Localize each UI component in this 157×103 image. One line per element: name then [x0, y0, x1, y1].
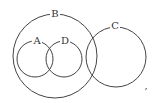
- set-b-label: B: [51, 8, 58, 19]
- set-a-circle: [17, 41, 53, 77]
- set-c-circle: [86, 27, 146, 87]
- trailing-comma: ,: [144, 80, 147, 91]
- set-d-circle: [46, 41, 82, 77]
- set-a-label: A: [32, 35, 41, 46]
- venn-diagram: B A D C ,: [0, 0, 157, 103]
- set-d-label: D: [61, 35, 69, 46]
- set-b-circle: [13, 14, 97, 98]
- set-c-label: C: [111, 20, 119, 31]
